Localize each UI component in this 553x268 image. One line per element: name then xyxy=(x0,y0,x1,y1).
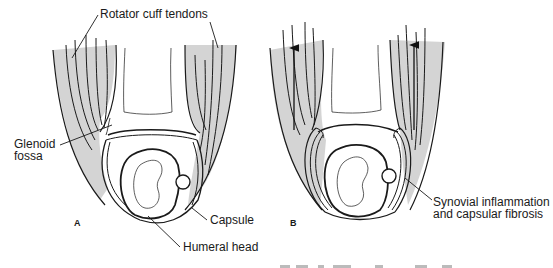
right-tendon-fill xyxy=(185,45,237,205)
panel-letter-a: A xyxy=(74,218,81,228)
label-capsule: Capsule xyxy=(210,214,254,227)
panel-letter-b: B xyxy=(290,218,297,228)
shoulder-diagram xyxy=(0,0,553,268)
label-humeral-head: Humeral head xyxy=(183,241,258,254)
label-rotator-cuff-tendons: Rotator cuff tendons xyxy=(100,8,208,21)
panel-b xyxy=(270,22,445,220)
label-synovial-inflammation-line2: and capsular fibrosis xyxy=(433,208,543,221)
label-glenoid-fossa-line2: fossa xyxy=(14,150,43,163)
